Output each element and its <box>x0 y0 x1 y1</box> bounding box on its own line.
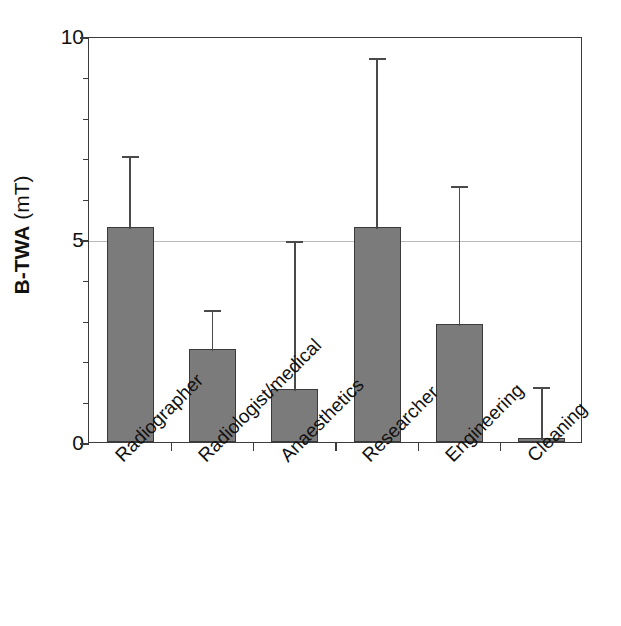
y-axis-title-unit: (mT) <box>10 176 33 226</box>
y-tick-minor-8 <box>83 119 89 120</box>
y-tick-minor-4 <box>83 281 89 282</box>
y-tick-minor-3 <box>83 322 89 323</box>
y-tick-minor-2 <box>83 362 89 363</box>
error-bar-cap-1 <box>122 156 139 158</box>
bar-4 <box>354 227 401 442</box>
error-bar-stem-1 <box>129 156 131 229</box>
error-bar-stem-2 <box>212 310 214 351</box>
error-bar-cap-4 <box>369 58 386 60</box>
x-axis-category-labels: RadiographerRadiologist/medicalAnaesthet… <box>88 443 582 626</box>
y-tick-major-10 <box>80 37 89 39</box>
y-axis-title-bold: B-TWA <box>10 226 33 295</box>
y-tick-major-5 <box>80 240 89 242</box>
y-tick-label-10: 10 <box>42 25 84 49</box>
y-tick-minor-7 <box>83 159 89 160</box>
error-bar-cap-5 <box>451 186 468 188</box>
bar-chart-figure: B-TWA (mT) 0510 RadiographerRadiologist/… <box>0 0 621 626</box>
error-bar-cap-3 <box>286 241 303 243</box>
y-tick-minor-1 <box>83 403 89 404</box>
y-tick-minor-9 <box>83 78 89 79</box>
plot-area <box>88 37 582 443</box>
y-axis-title: B-TWA (mT) <box>0 0 44 470</box>
error-bar-stem-4 <box>376 58 378 229</box>
gridline-5 <box>89 241 581 242</box>
y-tick-minor-6 <box>83 200 89 201</box>
y-tick-label-0: 0 <box>42 431 84 455</box>
error-bar-cap-6 <box>533 387 550 389</box>
bar-1 <box>107 227 154 442</box>
y-tick-label-5: 5 <box>42 228 84 252</box>
error-bar-cap-2 <box>204 310 221 312</box>
y-axis-tick-labels: 0510 <box>40 0 84 626</box>
error-bar-stem-5 <box>459 186 461 326</box>
